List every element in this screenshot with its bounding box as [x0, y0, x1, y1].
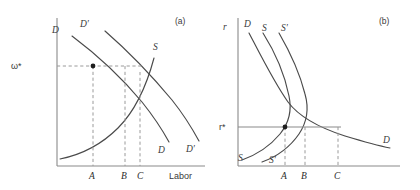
panel-b-equilibrium-dot	[283, 125, 288, 130]
economics-figure: ω* D D′ S D D′ A B C Labor (a)	[0, 0, 420, 190]
panel-a-tick-label-a: A	[88, 171, 95, 181]
panel-b-demand-top-label: D	[243, 19, 251, 29]
panel-b-supply-shift-bottom-label: S′	[269, 155, 277, 165]
panel-a-wage-label: ω*	[11, 61, 22, 71]
panel-b-id-label: (b)	[379, 16, 390, 26]
panel-a-tick-label-c: C	[137, 171, 144, 181]
panel-b: r r* D S S′ S S′ D A B C (b)	[219, 16, 400, 181]
panel-a: ω* D D′ S D D′ A B C Labor (a)	[11, 16, 205, 181]
panel-a-demand-shift-curve	[105, 31, 199, 141]
panel-b-tick-label-b: B	[301, 171, 307, 181]
panel-b-supply-bottom-label: S	[238, 153, 243, 163]
panel-b-tick-label-c: C	[334, 171, 341, 181]
panel-a-demand-shift-bottom-label: D′	[185, 144, 196, 154]
panel-b-supply-curve	[242, 33, 290, 160]
panel-a-demand-bottom-label: D	[157, 145, 165, 155]
panel-b-rate-label: r*	[219, 122, 226, 132]
panel-a-demand-shift-top-label: D′	[79, 19, 90, 29]
panel-a-supply-top-label: S	[153, 42, 158, 52]
panel-b-demand-right-label: D	[382, 135, 390, 145]
panel-a-x-axis-label: Labor	[169, 171, 192, 181]
figure-canvas: ω* D D′ S D D′ A B C Labor (a)	[0, 0, 420, 190]
panel-a-tick-label-b: B	[121, 171, 127, 181]
panel-a-id-label: (a)	[175, 16, 186, 26]
panel-b-supply-shift-top-label: S′	[281, 23, 289, 33]
panel-b-tick-label-a: A	[280, 171, 287, 181]
panel-a-equilibrium-dot	[91, 64, 96, 69]
panel-b-demand-curve	[249, 33, 390, 148]
panel-b-y-axis-label: r	[223, 22, 227, 32]
panel-a-demand-top-label: D	[51, 25, 59, 35]
panel-b-supply-top-label: S	[262, 23, 267, 33]
